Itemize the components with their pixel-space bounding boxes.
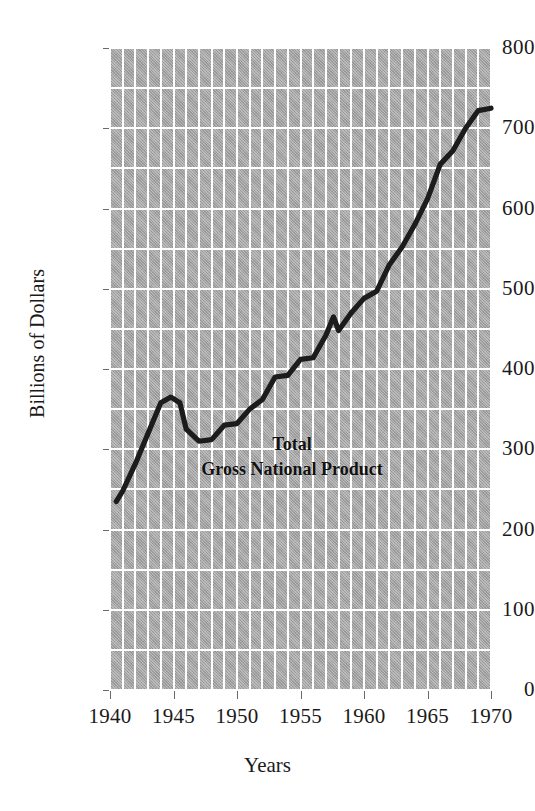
gridline-horizontal bbox=[110, 569, 491, 571]
y-tick-mark bbox=[103, 48, 109, 49]
gridline-vertical bbox=[414, 48, 416, 690]
y-tick-mark bbox=[103, 610, 109, 611]
gridline-vertical bbox=[249, 48, 251, 690]
gridline-vertical bbox=[325, 48, 327, 690]
series-annotation-line-2: Gross National Product bbox=[132, 457, 452, 482]
gridline-horizontal bbox=[110, 288, 491, 290]
gridline-vertical bbox=[134, 48, 136, 690]
gridline-horizontal bbox=[110, 47, 491, 49]
plot-area bbox=[110, 48, 491, 690]
y-tick-mark bbox=[103, 289, 109, 290]
gridline-vertical bbox=[211, 48, 213, 690]
gridline-horizontal bbox=[110, 649, 491, 651]
gridline-vertical bbox=[109, 48, 111, 690]
gridline-vertical bbox=[147, 48, 149, 690]
gridline-horizontal bbox=[110, 368, 491, 370]
gridline-vertical bbox=[122, 48, 124, 690]
gridline-vertical bbox=[185, 48, 187, 690]
gridline-vertical bbox=[287, 48, 289, 690]
gridline-vertical bbox=[452, 48, 454, 690]
y-tick-mark bbox=[103, 209, 109, 210]
plot-gridlines bbox=[110, 48, 491, 690]
gridline-vertical bbox=[376, 48, 378, 690]
gridline-vertical bbox=[439, 48, 441, 690]
gridline-vertical bbox=[198, 48, 200, 690]
gridline-horizontal bbox=[110, 87, 491, 89]
x-tick-mark bbox=[174, 691, 175, 699]
x-tick-mark bbox=[237, 691, 238, 699]
x-tick-mark bbox=[301, 691, 302, 699]
x-tick-mark bbox=[491, 691, 492, 699]
gridline-horizontal bbox=[110, 328, 491, 330]
gridline-vertical bbox=[160, 48, 162, 690]
gridline-vertical bbox=[173, 48, 175, 690]
gridline-horizontal bbox=[110, 529, 491, 531]
y-tick-mark bbox=[103, 530, 109, 531]
gridline-vertical bbox=[477, 48, 479, 690]
gridline-vertical bbox=[261, 48, 263, 690]
y-tick-mark bbox=[103, 690, 109, 691]
x-tick-mark bbox=[110, 691, 111, 699]
gridline-vertical bbox=[350, 48, 352, 690]
gridline-horizontal bbox=[110, 408, 491, 410]
gridline-horizontal bbox=[110, 609, 491, 611]
gridline-horizontal bbox=[110, 248, 491, 250]
gridline-vertical bbox=[401, 48, 403, 690]
gridline-vertical bbox=[312, 48, 314, 690]
gridline-vertical bbox=[465, 48, 467, 690]
gridline-horizontal bbox=[110, 127, 491, 129]
gridline-vertical bbox=[223, 48, 225, 690]
x-tick-mark bbox=[428, 691, 429, 699]
gridline-vertical bbox=[338, 48, 340, 690]
y-tick-mark bbox=[103, 369, 109, 370]
x-tick-label: 1970 bbox=[446, 706, 535, 727]
plot-background-texture bbox=[110, 48, 491, 690]
x-tick-mark bbox=[364, 691, 365, 699]
gnp-line-chart: 0100200300400500600700800 Billions of Do… bbox=[0, 0, 535, 811]
gridline-vertical bbox=[427, 48, 429, 690]
gridline-vertical bbox=[236, 48, 238, 690]
gridline-horizontal bbox=[110, 488, 491, 490]
gridline-vertical bbox=[363, 48, 365, 690]
y-axis-title: Billions of Dollars bbox=[26, 244, 49, 444]
gridline-horizontal bbox=[110, 208, 491, 210]
series-annotation-line-1: Total bbox=[132, 432, 452, 457]
gridline-vertical bbox=[388, 48, 390, 690]
gridline-vertical bbox=[300, 48, 302, 690]
gridline-horizontal bbox=[110, 167, 491, 169]
y-tick-mark bbox=[103, 449, 109, 450]
x-axis-title: Years bbox=[0, 753, 535, 778]
gridline-vertical bbox=[274, 48, 276, 690]
series-annotation: Total Gross National Product bbox=[132, 432, 452, 482]
y-tick-mark bbox=[103, 128, 109, 129]
